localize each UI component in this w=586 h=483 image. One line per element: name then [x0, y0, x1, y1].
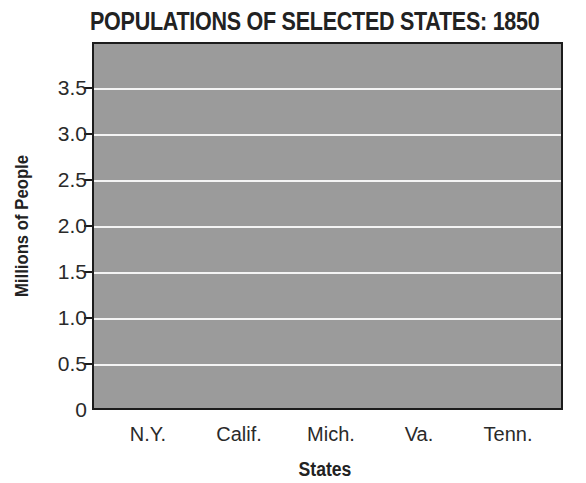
gridline-3-0 [94, 134, 561, 136]
xtick-label-ny: N.Y. [130, 423, 166, 445]
ytick-label: 0.5 [58, 353, 87, 375]
ytick-label: 3.0 [58, 123, 87, 145]
plot-area [92, 42, 563, 410]
gridline-1-0 [94, 318, 561, 320]
xtick-label-tenn: Tenn. [484, 423, 533, 445]
ytick-label: 1.0 [58, 307, 87, 329]
gridline-3-5 [94, 88, 561, 90]
xtick-label-mich: Mich. [307, 423, 355, 445]
ytick-label: 0 [75, 399, 87, 421]
gridline-2-0 [94, 226, 561, 228]
gridline-0-5 [94, 364, 561, 366]
gridline-1-5 [94, 272, 561, 274]
ytick-label: 1.5 [58, 261, 87, 283]
y-axis-label: Millions of People [11, 155, 33, 297]
ytick-label: 2.0 [58, 215, 87, 237]
ytick-label: 2.5 [58, 169, 87, 191]
ytick-label: 3.5 [58, 77, 87, 99]
gridline-2-5 [94, 180, 561, 182]
chart-title: POPULATIONS OF SELECTED STATES: 1850 [90, 6, 517, 36]
xtick-label-va: Va. [405, 423, 434, 445]
xtick-label-calif: Calif. [216, 423, 262, 445]
x-axis-label: States [299, 458, 352, 481]
